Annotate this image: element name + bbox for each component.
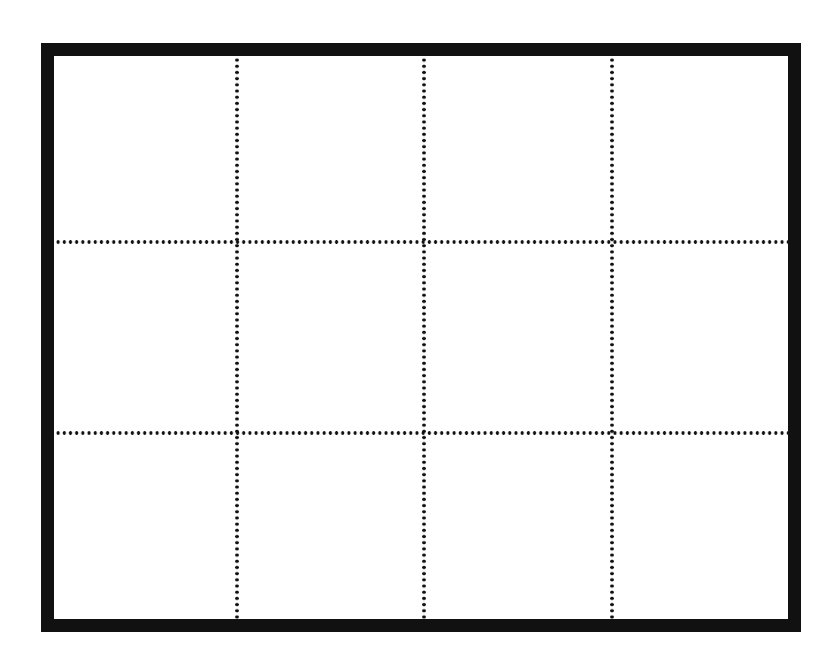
vertical-divider-3 bbox=[610, 56, 614, 619]
grid-frame bbox=[41, 43, 801, 632]
horizontal-divider-2 bbox=[54, 431, 788, 435]
horizontal-divider-1 bbox=[54, 240, 788, 244]
vertical-divider-1 bbox=[235, 56, 239, 619]
vertical-divider-2 bbox=[422, 56, 426, 619]
